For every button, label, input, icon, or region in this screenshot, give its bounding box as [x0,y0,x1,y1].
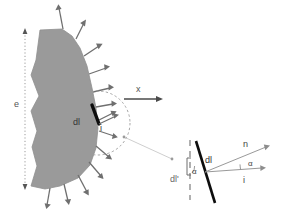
ray-arrow [55,4,63,29]
ray-arrow [96,146,112,160]
ray-arrow [89,64,110,74]
thickness-arrow-bottom [23,184,28,190]
leader-anchor-circle [123,136,126,139]
intensity-ray-arrowhead [113,113,119,119]
inset-normal-label: n [243,139,248,149]
inset-dl-label: dl [205,155,212,165]
ray-arrow [93,84,114,92]
inset-alpha-right-arc [240,164,241,169]
dl-label: dl [73,117,80,127]
x-axis-label: x [136,84,141,94]
thickness-arrow-top [23,28,28,34]
ray-arrow [45,188,51,209]
radiation-surface-diagram: e [0,0,281,214]
inset-dl-prime-label: dl' [170,174,179,184]
thickness-label: e [14,99,19,109]
ray-arrow [76,20,86,40]
x-axis-arrowhead [156,96,163,102]
intensity-label: i [100,123,102,133]
diagram-canvas: e [0,0,281,214]
inset-intensity-arrowhead [260,165,266,171]
inset-normal-arrowhead [264,144,270,150]
ray-arrow [84,44,103,57]
ray-arrow [78,175,89,196]
inset-alpha-left-label: α [192,167,197,176]
inset-intensity-label: i [243,175,245,185]
thickness-dimension: e [14,28,27,190]
leader-line-upper [124,137,172,159]
detail-inset: dl' dl α n i α [170,139,270,203]
ray-arrow [96,101,117,108]
ray-arrow [89,162,104,179]
leader-anchor-inset [171,158,174,161]
x-axis-arrow: x [124,84,163,102]
inset-alpha-right-label: α [248,159,253,168]
callout-leader-lines [123,136,174,161]
ray-arrow [64,184,71,205]
